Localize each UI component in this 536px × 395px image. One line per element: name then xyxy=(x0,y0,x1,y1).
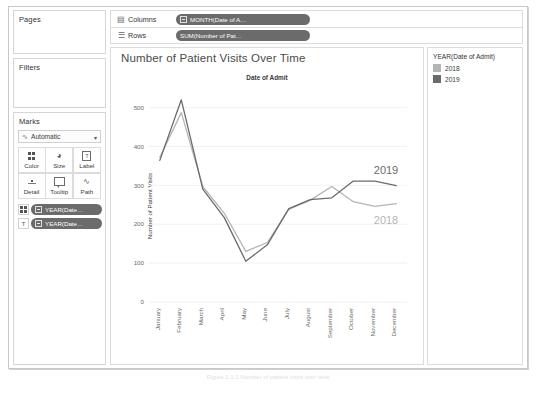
marks-path-label: Path xyxy=(81,188,94,195)
x-axis-tick-label: November xyxy=(369,308,376,337)
marks-pill-color[interactable]: YEAR(Date… xyxy=(31,204,102,215)
x-axis-tick-label: July xyxy=(283,307,290,319)
marks-card[interactable]: Marks ∿ Automatic ▾ Color ◕ Size xyxy=(13,112,106,365)
marks-tooltip-button[interactable]: Tooltip xyxy=(45,173,73,200)
x-axis-tick-label: February xyxy=(175,307,182,333)
x-axis-tick-label: October xyxy=(347,308,354,330)
marks-pill-label-text: YEAR(Date… xyxy=(45,218,83,229)
rows-icon: ☰ xyxy=(114,31,128,40)
x-axis-tick-label: August xyxy=(304,308,311,328)
color-dots-icon xyxy=(28,151,36,161)
columns-shelf[interactable]: ▤ Columns MONTH(Date of A… xyxy=(110,10,523,27)
discrete-field-icon xyxy=(35,206,42,213)
line-chart-svg: 0100200300400500JanuaryFebruaryMarchApri… xyxy=(111,48,423,364)
calendar-field-icon xyxy=(180,16,187,23)
columns-icon: ▤ xyxy=(114,15,128,24)
figure-caption: Figure 1.1.1 Number of patient visits ov… xyxy=(0,374,536,380)
detail-icon xyxy=(28,177,36,187)
marks-color-button[interactable]: Color xyxy=(18,147,46,174)
tooltip-icon xyxy=(54,177,65,187)
marks-label-label: Label xyxy=(79,162,94,169)
label-icon: T xyxy=(18,218,29,229)
series-line-2018[interactable] xyxy=(160,113,396,252)
y-axis-tick-label: 0 xyxy=(141,298,145,305)
marks-card-title: Marks xyxy=(14,113,105,126)
color-dots-icon xyxy=(18,204,29,215)
rows-shelf-label: Rows xyxy=(128,31,176,40)
marks-pill-label-row[interactable]: T YEAR(Date… xyxy=(18,218,102,229)
marks-color-label: Color xyxy=(24,162,39,169)
x-axis-tick-label: April xyxy=(218,308,225,320)
pages-card-title: Pages xyxy=(14,11,105,24)
legend-item-2019[interactable]: 2019 xyxy=(433,75,517,83)
legend-item-2018[interactable]: 2018 xyxy=(433,64,517,72)
marks-pill-color-row[interactable]: YEAR(Date… xyxy=(18,204,102,215)
legend-swatch xyxy=(433,64,441,72)
legend-swatch xyxy=(433,75,441,83)
label-icon: T xyxy=(82,151,91,161)
left-cards-column: Pages Filters Marks ∿ Automatic ▾ Color xyxy=(9,7,109,368)
marks-type-dropdown[interactable]: ∿ Automatic ▾ xyxy=(18,130,101,143)
y-axis-tick-label: 500 xyxy=(134,104,145,111)
size-icon: ◕ xyxy=(57,151,62,161)
filters-card[interactable]: Filters xyxy=(13,58,106,108)
x-axis-tick-label: September xyxy=(326,308,333,338)
x-axis-tick-label: June xyxy=(261,307,268,321)
marks-pills-list: YEAR(Date… T YEAR(Date… xyxy=(18,204,102,229)
marks-label-button[interactable]: T Label xyxy=(73,147,101,174)
y-axis-tick-label: 300 xyxy=(134,182,145,189)
marks-type-value: Automatic xyxy=(31,133,60,140)
y-axis-tick-label: 400 xyxy=(134,143,145,150)
x-axis-tick-label: December xyxy=(390,308,397,337)
discrete-field-icon xyxy=(35,220,42,227)
color-legend[interactable]: YEAR(Date of Admit) 2018 2019 xyxy=(427,47,523,365)
legend-title: YEAR(Date of Admit) xyxy=(433,53,517,60)
y-axis-tick-label: 100 xyxy=(134,259,145,266)
y-axis-tick-label: 200 xyxy=(134,220,145,227)
marks-pill-label[interactable]: YEAR(Date… xyxy=(31,218,102,229)
marks-pill-color-text: YEAR(Date… xyxy=(45,204,83,215)
legend-item-label: 2019 xyxy=(445,76,460,83)
pages-card[interactable]: Pages xyxy=(13,10,106,54)
x-axis-tick-label: March xyxy=(197,307,204,325)
path-icon: ∿ xyxy=(83,177,90,187)
marks-size-label: Size xyxy=(53,162,65,169)
rows-shelf-pill[interactable]: SUM(Number of Pat… xyxy=(176,30,310,41)
columns-shelf-pill[interactable]: MONTH(Date of A… xyxy=(176,14,310,25)
columns-shelf-label: Columns xyxy=(128,15,176,24)
marks-detail-button[interactable]: Detail xyxy=(18,173,46,200)
marks-buttons-grid: Color ◕ Size T Label Detail xyxy=(18,147,101,199)
x-axis-tick-label: May xyxy=(240,307,247,320)
rows-shelf[interactable]: ☰ Rows SUM(Number of Pat… xyxy=(110,27,523,44)
right-column: ▤ Columns MONTH(Date of A… ☰ Rows SUM(Nu… xyxy=(109,7,527,368)
chart-panel[interactable]: Number of Patient Visits Over Time Date … xyxy=(110,47,424,365)
series-end-label-2018: 2018 xyxy=(374,214,398,226)
line-mark-icon: ∿ xyxy=(22,133,28,141)
marks-tooltip-label: Tooltip xyxy=(50,188,68,195)
visualization-area: Number of Patient Visits Over Time Date … xyxy=(110,47,523,365)
chevron-down-icon[interactable]: ▾ xyxy=(94,133,97,140)
series-line-2019[interactable] xyxy=(160,100,396,261)
marks-size-button[interactable]: ◕ Size xyxy=(45,147,73,174)
series-end-label-2019: 2019 xyxy=(374,164,398,176)
x-axis-tick-label: January xyxy=(154,307,161,330)
legend-item-label: 2018 xyxy=(445,65,460,72)
marks-detail-label: Detail xyxy=(24,188,40,195)
columns-shelf-pill-text: MONTH(Date of A… xyxy=(190,14,246,25)
filters-card-title: Filters xyxy=(14,59,105,72)
tableau-worksheet-window: Pages Filters Marks ∿ Automatic ▾ Color xyxy=(8,6,528,369)
marks-path-button[interactable]: ∿ Path xyxy=(73,173,101,200)
rows-shelf-pill-text: SUM(Number of Pat… xyxy=(180,30,242,41)
